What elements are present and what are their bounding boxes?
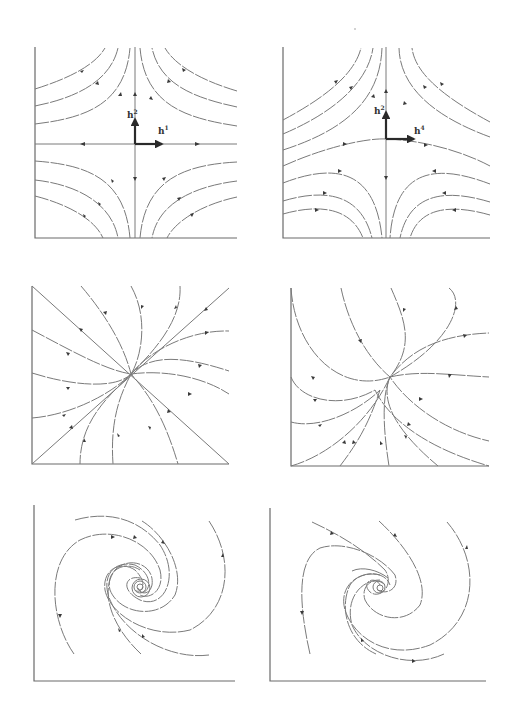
- trajectory: [152, 48, 237, 107]
- panel-axes: [34, 505, 235, 681]
- phase-portrait-figure: h2 h1: [0, 0, 516, 709]
- label-h4: h4: [414, 124, 425, 136]
- trajectory: [167, 197, 237, 238]
- panel-saddle-a: h2 h1: [35, 47, 237, 238]
- trajectory: [291, 390, 380, 466]
- flow-arrows: [58, 535, 224, 638]
- trajectory: [152, 181, 237, 238]
- label-h2: h2: [374, 104, 385, 116]
- label-h1: h1: [158, 124, 169, 136]
- trajectory: [283, 48, 382, 150]
- trajectory: [32, 331, 229, 418]
- trajectory: [32, 330, 229, 394]
- spiral-core: [132, 579, 150, 597]
- trajectory: [400, 195, 490, 238]
- trajectory: [291, 288, 489, 381]
- trajectory: [35, 48, 130, 124]
- trajectory: [410, 209, 490, 238]
- trajectory: [283, 209, 363, 238]
- panel-spiral-a: [34, 505, 235, 681]
- trajectory: [105, 521, 225, 632]
- label-h2: h2: [127, 108, 138, 120]
- trajectory: [35, 180, 118, 238]
- trajectory: [364, 521, 422, 618]
- trajectory: [302, 546, 396, 654]
- trajectory: [140, 48, 237, 126]
- spiral-core: [352, 569, 388, 593]
- trajectory: [283, 173, 382, 238]
- trajectory: [140, 162, 237, 238]
- trajectory: [35, 196, 103, 238]
- trajectory: [112, 286, 141, 464]
- panel-node-b: [291, 288, 489, 466]
- trajectory: [107, 564, 209, 656]
- trajectory: [35, 161, 130, 238]
- trajectory: [283, 48, 361, 120]
- panel-node-a: [32, 286, 229, 464]
- panel-spiral-b: [270, 508, 486, 681]
- trajectory: [390, 173, 490, 238]
- trajectory: [283, 195, 372, 238]
- trajectory: [384, 288, 405, 466]
- trajectory: [387, 288, 456, 466]
- trajectory: [345, 574, 390, 654]
- trajectory: [399, 48, 490, 137]
- flow-arrows: [300, 531, 468, 663]
- trajectory: [412, 48, 490, 122]
- panel-saddle-b: h2 h4: [283, 47, 490, 238]
- trajectory: [35, 48, 118, 106]
- speck: [354, 28, 356, 30]
